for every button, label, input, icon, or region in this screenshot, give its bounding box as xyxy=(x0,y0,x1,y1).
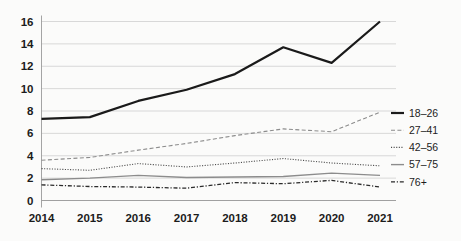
y-tick-label: 14 xyxy=(21,38,34,50)
x-tick-label: 2017 xyxy=(174,212,200,224)
x-tick-label: 2019 xyxy=(270,212,296,224)
x-tick-label: 2014 xyxy=(29,212,55,224)
y-tick-label: 12 xyxy=(21,60,34,72)
x-tick-label: 2018 xyxy=(222,212,248,224)
line-chart: 0246810121416 20142015201620172018201920… xyxy=(0,0,461,241)
legend-label[interactable]: 42–56 xyxy=(409,141,438,153)
legend-label[interactable]: 76+ xyxy=(409,176,427,188)
x-tick-label: 2021 xyxy=(367,212,393,224)
x-tick-label: 2016 xyxy=(125,212,151,224)
legend-label[interactable]: 27–41 xyxy=(409,124,438,136)
x-tick-label: 2020 xyxy=(319,212,345,224)
x-tick-label: 2015 xyxy=(77,212,103,224)
y-tick-label: 0 xyxy=(27,195,33,207)
legend: 18–2627–4142–5657–7576+ xyxy=(391,107,438,188)
y-tick-label: 8 xyxy=(27,105,34,117)
y-tick-label: 4 xyxy=(27,150,34,162)
y-tick-label: 10 xyxy=(21,83,34,95)
y-tick-label: 16 xyxy=(21,16,34,28)
series-line-76+ xyxy=(42,180,381,188)
series-line-18-26 xyxy=(42,22,381,119)
y-tick-label: 2 xyxy=(27,172,33,184)
chart-canvas: 0246810121416 20142015201620172018201920… xyxy=(0,0,461,241)
series-line-27-41 xyxy=(42,112,381,160)
axis-lines xyxy=(42,16,397,208)
x-axis-tick-labels: 20142015201620172018201920202021 xyxy=(29,212,394,224)
data-series xyxy=(42,22,381,189)
series-line-42-56 xyxy=(42,159,381,171)
series-line-57-75 xyxy=(42,173,381,180)
legend-label[interactable]: 18–26 xyxy=(409,107,438,119)
y-axis-tick-labels: 0246810121416 xyxy=(21,16,34,207)
legend-label[interactable]: 57–75 xyxy=(409,158,438,170)
y-tick-label: 6 xyxy=(27,127,33,139)
